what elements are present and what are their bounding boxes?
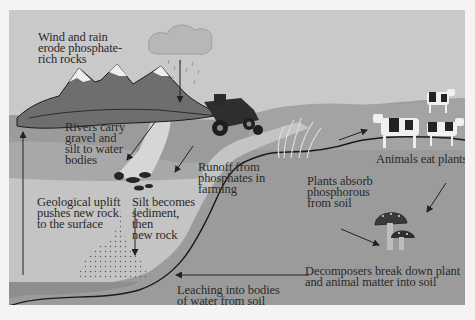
label-plants: Plants absorb phosphorous from soil — [307, 176, 373, 209]
label-runoff: Runoff from phosphates in farming — [198, 162, 265, 195]
label-animals: Animals eat plants — [376, 154, 465, 165]
label-decomposers: Decomposers break down plant and animal … — [305, 266, 460, 288]
label-wind-rain: Wind and rain erode phosphate- rich rock… — [38, 32, 122, 65]
label-rivers: Rivers carry gravel and silt to water bo… — [65, 122, 125, 166]
label-uplift: Geological uplift pushes new rock to the… — [37, 197, 120, 230]
phosphorus-cycle-diagram: Wind and rain erode phosphate- rich rock… — [9, 10, 465, 305]
label-leaching: Leaching into bodies of water from soil — [177, 285, 280, 305]
label-silt: Silt becomes sediment, then new rock — [132, 197, 195, 241]
